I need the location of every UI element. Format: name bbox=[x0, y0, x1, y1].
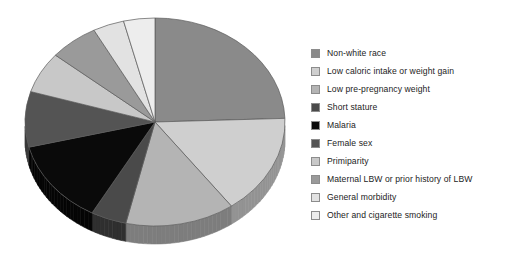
legend-item[interactable]: Primiparity bbox=[311, 152, 511, 170]
pie-slice-side bbox=[161, 226, 165, 244]
pie-slice-side bbox=[104, 218, 108, 237]
pie-slice-side bbox=[224, 208, 228, 228]
pie-slice-side bbox=[212, 214, 216, 234]
legend-item-label: Low caloric intake or weight gain bbox=[327, 66, 454, 76]
pie-slice-side bbox=[61, 193, 64, 214]
legend-swatch-icon bbox=[311, 211, 320, 220]
pie-slice-side bbox=[231, 204, 235, 224]
legend-swatch-icon bbox=[311, 85, 320, 94]
legend-swatch-icon bbox=[311, 67, 320, 76]
legend-item-label: General morbidity bbox=[327, 192, 396, 202]
legend-swatch-icon bbox=[311, 139, 320, 148]
pie-slice[interactable] bbox=[155, 18, 285, 122]
pie-slice-side bbox=[148, 226, 152, 244]
pie-slice-side bbox=[88, 211, 92, 231]
legend-item[interactable]: Low caloric intake or weight gain bbox=[311, 62, 511, 80]
pie-slice-side bbox=[74, 203, 78, 223]
legend-item[interactable]: General morbidity bbox=[311, 188, 511, 206]
legend-item-label: Female sex bbox=[327, 138, 372, 148]
legend-item-label: Other and cigarette smoking bbox=[327, 210, 437, 220]
pie-slice-side bbox=[139, 225, 143, 243]
pie-slice-side bbox=[220, 210, 224, 230]
legend-item-label: Maternal LBW or prior history of LBW bbox=[327, 174, 472, 184]
legend-swatch-icon bbox=[311, 175, 320, 184]
pie-slice-side bbox=[208, 215, 212, 235]
legend-item-label: Primiparity bbox=[327, 156, 369, 166]
pie-slice-side bbox=[108, 219, 112, 238]
pie-slice-side bbox=[113, 220, 117, 239]
pie-slice-side bbox=[170, 225, 174, 243]
legend-item[interactable]: Short stature bbox=[311, 98, 511, 116]
pie-slice-side bbox=[52, 185, 55, 206]
pie-slice-side bbox=[134, 225, 138, 244]
legend-item-label: Short stature bbox=[327, 102, 377, 112]
legend-item-label: Malaria bbox=[327, 120, 356, 130]
pie-slice-side bbox=[183, 223, 187, 242]
pie-slice-side bbox=[70, 201, 73, 221]
pie-plot-area bbox=[0, 0, 300, 267]
pie-slice-side bbox=[58, 191, 61, 212]
pie-slice-side bbox=[44, 177, 46, 198]
legend-swatch-icon bbox=[311, 193, 320, 202]
pie-slice-side bbox=[235, 202, 239, 222]
pie-slice-side bbox=[126, 223, 130, 242]
pie-slice-side bbox=[216, 212, 220, 232]
pie-slice-side bbox=[100, 216, 104, 235]
pie-slice-side bbox=[157, 226, 161, 244]
pie-slice-side bbox=[192, 221, 196, 240]
chart-legend: Non-white raceLow caloric intake or weig… bbox=[311, 44, 511, 224]
legend-item-label: Low pre-pregnancy weight bbox=[327, 84, 430, 94]
pie-slice-side bbox=[255, 186, 258, 207]
legend-swatch-icon bbox=[311, 103, 320, 112]
pie-chart-figure: Non-white raceLow caloric intake or weig… bbox=[0, 0, 514, 267]
pie-slice-side bbox=[96, 215, 100, 235]
pie-slice-side bbox=[166, 225, 170, 243]
pie-slice-side bbox=[174, 224, 178, 243]
legend-item[interactable]: Maternal LBW or prior history of LBW bbox=[311, 170, 511, 188]
pie-slice-side bbox=[152, 226, 156, 244]
pie-slice-side bbox=[252, 189, 255, 210]
pie-chart-svg bbox=[0, 0, 300, 267]
legend-item[interactable]: Non-white race bbox=[311, 44, 511, 62]
legend-swatch-icon bbox=[311, 49, 320, 58]
pie-slice-side bbox=[228, 206, 232, 226]
pie-slice-side bbox=[204, 217, 208, 236]
pie-slice-side bbox=[187, 222, 191, 241]
pie-slice-side bbox=[121, 222, 125, 241]
pie-slice-side bbox=[92, 213, 96, 233]
pie-slice-side bbox=[245, 194, 248, 215]
legend-item-label: Non-white race bbox=[327, 48, 386, 58]
pie-slice-side bbox=[117, 221, 121, 240]
pie-slice-side bbox=[81, 207, 85, 227]
pie-slice-side bbox=[196, 220, 200, 239]
pie-slice-side bbox=[77, 205, 81, 225]
pie-slice-side bbox=[260, 180, 263, 201]
pie-slice-side bbox=[47, 180, 50, 201]
pie-slice-side bbox=[64, 196, 67, 216]
pie-slice-side bbox=[249, 192, 252, 213]
pie-slice-side bbox=[130, 224, 134, 243]
pie-slice-side bbox=[143, 226, 147, 244]
pie-slice-side bbox=[239, 199, 242, 219]
legend-item[interactable]: Other and cigarette smoking bbox=[311, 206, 511, 224]
legend-item[interactable]: Malaria bbox=[311, 116, 511, 134]
pie-slice-side bbox=[49, 182, 52, 203]
pie-slice-side bbox=[84, 209, 88, 229]
legend-item[interactable]: Female sex bbox=[311, 134, 511, 152]
pie-slice-side bbox=[67, 198, 70, 218]
legend-swatch-icon bbox=[311, 157, 320, 166]
pie-slice-side bbox=[55, 188, 58, 209]
pie-slice-side bbox=[200, 218, 204, 237]
pie-slice-side bbox=[257, 183, 260, 204]
pie-slices bbox=[25, 18, 285, 226]
legend-item[interactable]: Low pre-pregnancy weight bbox=[311, 80, 511, 98]
legend-swatch-icon bbox=[311, 121, 320, 130]
pie-slice-side bbox=[242, 197, 245, 217]
pie-slice-side bbox=[179, 224, 183, 243]
